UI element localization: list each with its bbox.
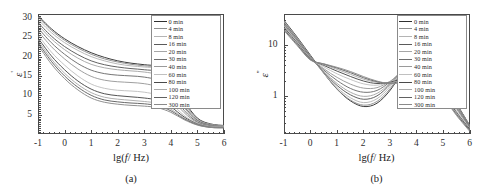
x-minor-tick-b bbox=[294, 132, 295, 135]
x-tick-label-a: -1 bbox=[34, 139, 42, 149]
y-minor-tick-a bbox=[38, 55, 41, 56]
x-minor-tick-a bbox=[208, 132, 209, 135]
legend-line-swatch bbox=[154, 51, 167, 52]
legend-line-swatch bbox=[399, 66, 412, 67]
y-minor-tick-a bbox=[38, 64, 41, 65]
x-minor-tick-b bbox=[395, 132, 396, 135]
legend-item-label: 300 min bbox=[414, 101, 435, 109]
x-major-tick-b bbox=[363, 130, 364, 134]
x-minor-tick-b bbox=[374, 132, 375, 135]
x-minor-tick-a bbox=[102, 132, 103, 135]
y-minor-tick-a bbox=[38, 103, 41, 104]
x-minor-tick-b bbox=[331, 132, 332, 135]
y-minor-tick-a bbox=[38, 122, 41, 123]
x-minor-tick-a bbox=[139, 132, 140, 135]
y-minor-tick-a bbox=[38, 68, 41, 69]
x-minor-tick-a bbox=[43, 132, 44, 135]
x-minor-tick-a bbox=[96, 132, 97, 135]
x-major-tick-b bbox=[310, 130, 311, 134]
legend-line-swatch bbox=[399, 44, 412, 45]
legend-item-label: 20 min bbox=[414, 48, 432, 56]
legend-line-swatch bbox=[154, 36, 167, 37]
y-minor-tick-b bbox=[284, 53, 287, 54]
legend-item[interactable]: 80 min bbox=[154, 78, 219, 86]
y-minor-tick-a bbox=[38, 70, 41, 71]
y-minor-tick-a bbox=[38, 117, 41, 118]
y-tick-label-a: 30 bbox=[0, 13, 32, 23]
legend-item[interactable]: 8 min bbox=[399, 33, 464, 41]
y-minor-tick-b bbox=[284, 72, 287, 73]
y-major-tick-a bbox=[38, 76, 42, 77]
legend-item-label: 30 min bbox=[169, 55, 187, 63]
x-minor-tick-b bbox=[305, 132, 306, 135]
x-minor-tick-b bbox=[432, 132, 433, 135]
legend-item-label: 100 min bbox=[169, 86, 190, 94]
legend-item[interactable]: 20 min bbox=[154, 48, 219, 56]
y-minor-tick-a bbox=[38, 51, 41, 52]
legend-b[interactable]: 0 min4 min8 min16 min20 min30 min40 min6… bbox=[397, 15, 467, 109]
legend-item[interactable]: 0 min bbox=[154, 18, 219, 26]
legend-item[interactable]: 0 min bbox=[399, 18, 464, 26]
y-minor-tick-a bbox=[38, 53, 41, 54]
y-major-tick-a bbox=[38, 37, 42, 38]
y-minor-tick-a bbox=[38, 31, 41, 32]
legend-item[interactable]: 100 min bbox=[399, 86, 464, 94]
x-minor-tick-b bbox=[406, 132, 407, 135]
x-minor-tick-b bbox=[427, 132, 428, 135]
legend-line-swatch bbox=[399, 89, 412, 90]
x-major-tick-b bbox=[390, 130, 391, 134]
legend-item[interactable]: 4 min bbox=[154, 25, 219, 33]
y-minor-tick-a bbox=[38, 109, 41, 110]
legend-item[interactable]: 40 min bbox=[399, 63, 464, 71]
legend-item[interactable]: 120 min bbox=[154, 93, 219, 101]
x-minor-tick-a bbox=[150, 132, 151, 135]
legend-item[interactable]: 300 min bbox=[399, 101, 464, 109]
legend-line-swatch bbox=[154, 82, 167, 83]
y-minor-tick-b bbox=[284, 20, 287, 21]
legend-item[interactable]: 16 min bbox=[154, 40, 219, 48]
x-minor-tick-b bbox=[400, 132, 401, 135]
legend-item-label: 8 min bbox=[169, 33, 184, 41]
y-minor-tick-a bbox=[38, 99, 41, 100]
y-minor-tick-a bbox=[38, 22, 41, 23]
legend-item[interactable]: 60 min bbox=[399, 71, 464, 79]
legend-item[interactable]: 60 min bbox=[154, 71, 219, 79]
y-minor-tick-b bbox=[284, 47, 287, 48]
y-minor-tick-a bbox=[38, 74, 41, 75]
y-minor-tick-a bbox=[38, 84, 41, 85]
legend-item[interactable]: 80 min bbox=[399, 78, 464, 86]
legend-line-swatch bbox=[154, 89, 167, 90]
x-minor-tick-b bbox=[384, 132, 385, 135]
y-minor-tick-a bbox=[38, 14, 41, 15]
y-minor-tick-a bbox=[38, 124, 41, 125]
legend-item[interactable]: 100 min bbox=[154, 86, 219, 94]
legend-item[interactable]: 40 min bbox=[154, 63, 219, 71]
y-minor-tick-a bbox=[38, 72, 41, 73]
y-minor-tick-a bbox=[38, 80, 41, 81]
panel-a: -10123456 51015202530 lg(f/ Hz) ε' (a) 0… bbox=[0, 0, 244, 194]
legend-item[interactable]: 30 min bbox=[399, 55, 464, 63]
x-minor-tick-a bbox=[192, 132, 193, 135]
legend-item[interactable]: 8 min bbox=[154, 33, 219, 41]
legend-item[interactable]: 30 min bbox=[154, 55, 219, 63]
x-axis-title-suffix-b: / Hz) bbox=[373, 152, 394, 163]
legend-item[interactable]: 300 min bbox=[154, 101, 219, 109]
x-minor-tick-a bbox=[219, 132, 220, 135]
y-major-tick-a bbox=[38, 57, 42, 58]
x-axis-title-b: lg(f/ Hz) bbox=[359, 152, 395, 163]
x-minor-tick-b bbox=[315, 132, 316, 135]
y-tick-label-a: 5 bbox=[0, 110, 32, 120]
legend-line-swatch bbox=[154, 44, 167, 45]
y-minor-tick-a bbox=[38, 97, 41, 98]
legend-item[interactable]: 16 min bbox=[399, 40, 464, 48]
x-minor-tick-a bbox=[134, 132, 135, 135]
legend-item[interactable]: 20 min bbox=[399, 48, 464, 56]
x-minor-tick-b bbox=[448, 132, 449, 135]
y-minor-tick-a bbox=[38, 35, 41, 36]
x-minor-tick-a bbox=[59, 132, 60, 135]
legend-item[interactable]: 4 min bbox=[399, 25, 464, 33]
y-minor-tick-a bbox=[38, 66, 41, 67]
x-major-tick-b bbox=[416, 130, 417, 134]
legend-a[interactable]: 0 min4 min8 min16 min20 min30 min40 min6… bbox=[151, 15, 221, 109]
legend-item[interactable]: 120 min bbox=[399, 93, 464, 101]
